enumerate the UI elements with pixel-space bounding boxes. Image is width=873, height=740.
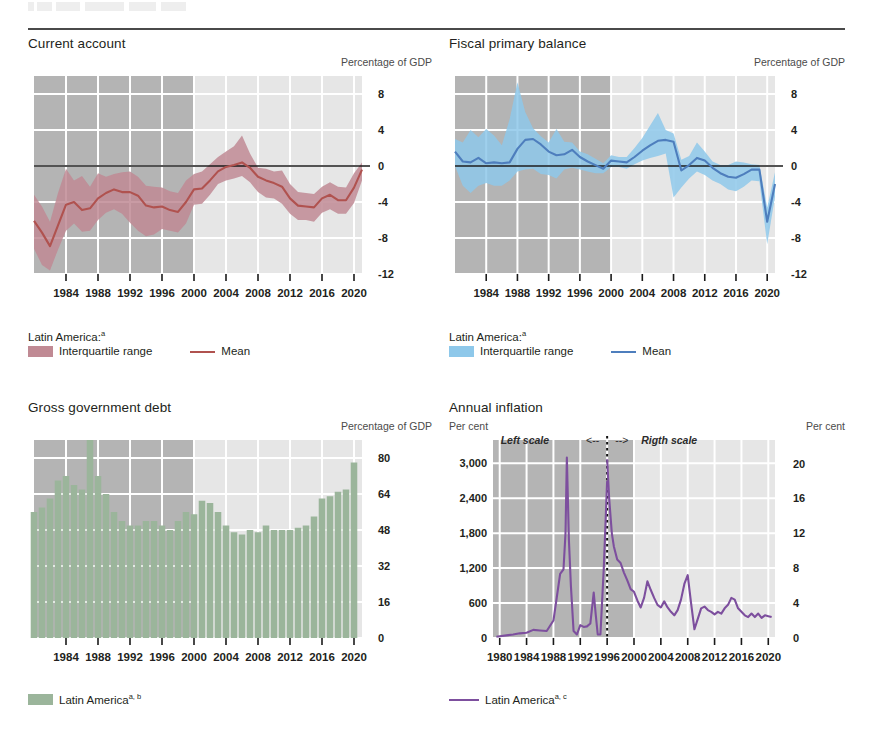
unit-row-gross-government-debt: Percentage of GDP — [28, 420, 432, 434]
legend-rows: Interquartile range Mean — [28, 346, 432, 358]
legend-swatch-mean — [190, 351, 215, 353]
legend-label-interquartile-range: Interquartile range — [480, 346, 573, 358]
svg-text:2008: 2008 — [245, 287, 271, 299]
panel-gross-government-debt: Gross government debt Percentage of GDP … — [28, 400, 432, 706]
svg-text:-4: -4 — [378, 196, 389, 208]
legend-label-mean: Mean — [642, 346, 671, 358]
svg-text:2012: 2012 — [692, 287, 718, 299]
svg-text:2012: 2012 — [277, 287, 303, 299]
unit-label-per-cent-right: Per cent — [806, 420, 845, 432]
svg-text:2004: 2004 — [630, 287, 656, 299]
plot-annual-inflation: 3,0002,4001,8001,20060002016128401980198… — [449, 434, 845, 684]
svg-text:Left scale: Left scale — [501, 434, 550, 446]
panel-fiscal-primary-balance: Fiscal primary balance Percentage of GDP… — [449, 36, 845, 357]
horizontal-rule — [28, 28, 845, 30]
svg-text:1992: 1992 — [567, 651, 593, 663]
svg-text:1980: 1980 — [487, 651, 513, 663]
svg-text:2020: 2020 — [755, 651, 781, 663]
svg-text:1988: 1988 — [85, 287, 111, 299]
chart-svg-annual-inflation: 3,0002,4001,8001,20060002016128401980198… — [449, 434, 845, 684]
svg-text:2016: 2016 — [723, 287, 749, 299]
svg-text:1992: 1992 — [536, 287, 562, 299]
svg-text:12: 12 — [793, 527, 805, 539]
svg-text:2020: 2020 — [341, 287, 367, 299]
legend-label-interquartile-range: Interquartile range — [59, 346, 152, 358]
svg-text:64: 64 — [378, 488, 391, 500]
svg-text:2008: 2008 — [661, 287, 687, 299]
svg-text:2000: 2000 — [598, 287, 624, 299]
legend-fiscal-primary-balance: Latin America:a Interquartile range Mean — [449, 329, 845, 357]
unit-label-percentage-of-gdp: Percentage of GDP — [754, 56, 845, 68]
panel-annual-inflation: Annual inflation Per cent Per cent 3,000… — [449, 400, 845, 706]
legend-rows: Interquartile range Mean — [449, 346, 845, 358]
svg-text:8: 8 — [791, 88, 797, 100]
legend-label-latin-america: Latin Americaa, c — [485, 693, 567, 706]
chart-svg-current-account: 840-4-8-12198419881992199620002004200820… — [28, 70, 432, 320]
svg-text:-12: -12 — [378, 268, 394, 280]
legend-label-text: Latin America — [485, 694, 555, 706]
unit-label-per-cent-left: Per cent — [449, 420, 488, 432]
svg-text:1984: 1984 — [53, 287, 79, 299]
legend-label-superscript: a, b — [129, 692, 142, 701]
svg-text:1988: 1988 — [505, 287, 531, 299]
svg-text:4: 4 — [378, 124, 385, 136]
svg-text:-8: -8 — [791, 232, 801, 244]
legend-swatch-latin-america — [28, 694, 53, 705]
svg-text:1984: 1984 — [514, 651, 540, 663]
legend-swatch-interquartile-range — [28, 346, 53, 357]
svg-text:Rigth scale: Rigth scale — [641, 434, 697, 446]
svg-text:2004: 2004 — [213, 287, 239, 299]
svg-text:1984: 1984 — [473, 287, 499, 299]
chart-svg-fiscal-primary-balance: 840-4-8-12198419881992199620002004200820… — [449, 70, 845, 320]
svg-text:1996: 1996 — [149, 287, 175, 299]
svg-text:20: 20 — [793, 458, 805, 470]
chart-svg-gross-government-debt: 8064483216019841988199219962000200420082… — [28, 434, 432, 684]
svg-text:1988: 1988 — [541, 651, 567, 663]
svg-text:80: 80 — [378, 452, 390, 464]
legend-heading: Latin America:a — [449, 329, 845, 343]
unit-row-current-account: Percentage of GDP — [28, 56, 432, 70]
legend-heading-text: Latin America: — [449, 331, 522, 343]
legend-heading-superscript: a — [522, 329, 526, 338]
legend-swatch-mean — [611, 351, 636, 353]
panel-current-account: Current account Percentage of GDP 840-4-… — [28, 36, 432, 357]
svg-text:48: 48 — [378, 524, 390, 536]
svg-text:2020: 2020 — [754, 287, 780, 299]
svg-text:2000: 2000 — [621, 651, 647, 663]
legend-current-account: Latin America:a Interquartile range Mean — [28, 329, 432, 357]
cut-off-heading-above — [28, 2, 588, 11]
svg-text:1992: 1992 — [117, 651, 143, 663]
legend-annual-inflation: Latin Americaa, c — [449, 693, 845, 706]
svg-text:-8: -8 — [378, 232, 388, 244]
svg-text:-12: -12 — [791, 268, 807, 280]
unit-label-percentage-of-gdp: Percentage of GDP — [341, 56, 432, 68]
plot-gross-government-debt: 8064483216019841988199219962000200420082… — [28, 434, 432, 684]
svg-text:2020: 2020 — [341, 651, 367, 663]
svg-text:1996: 1996 — [594, 651, 620, 663]
svg-text:8: 8 — [378, 88, 384, 100]
svg-text:-->: --> — [615, 434, 628, 446]
legend-label-latin-america: Latin Americaa, b — [59, 693, 141, 706]
svg-text:2004: 2004 — [213, 651, 239, 663]
panel-title-fiscal-primary-balance: Fiscal primary balance — [449, 36, 845, 51]
legend-gross-government-debt: Latin Americaa, b — [28, 693, 432, 706]
plot-fiscal-primary-balance: 840-4-8-12198419881992199620002004200820… — [449, 70, 845, 320]
legend-swatch-latin-america — [449, 699, 479, 701]
legend-rows: Latin Americaa, b — [28, 693, 432, 706]
unit-label-percentage-of-gdp: Percentage of GDP — [341, 420, 432, 432]
svg-text:2016: 2016 — [729, 651, 755, 663]
legend-heading: Latin America:a — [28, 329, 432, 343]
svg-text:2008: 2008 — [675, 651, 701, 663]
svg-text:2008: 2008 — [245, 651, 271, 663]
svg-text:2,400: 2,400 — [459, 492, 487, 504]
legend-heading-superscript: a — [101, 329, 105, 338]
svg-text:-4: -4 — [791, 196, 802, 208]
svg-text:<--: <-- — [586, 434, 600, 446]
svg-text:0: 0 — [481, 632, 487, 644]
legend-label-mean: Mean — [221, 346, 250, 358]
svg-text:1,200: 1,200 — [459, 562, 487, 574]
panel-title-gross-government-debt: Gross government debt — [28, 400, 432, 415]
legend-label-text: Latin America — [59, 694, 129, 706]
svg-text:1988: 1988 — [85, 651, 111, 663]
legend-label-superscript: a, c — [555, 692, 567, 701]
